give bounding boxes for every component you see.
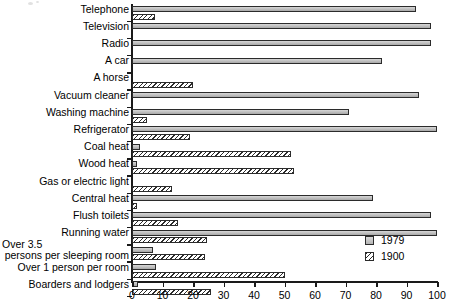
- bar-group: [132, 22, 437, 39]
- bar-1900: [132, 272, 285, 278]
- x-axis-tick-label: 0: [129, 289, 135, 301]
- bar-1979: [132, 144, 140, 150]
- x-axis-tick: [285, 282, 287, 287]
- bar-1979: [132, 40, 431, 46]
- bar-group: [132, 57, 437, 74]
- bar-1979: [132, 58, 382, 64]
- category-label: Coal heat: [0, 141, 129, 152]
- x-axis-tick-label: 100: [428, 289, 446, 301]
- bar-1900: [132, 220, 178, 226]
- category-label: Refrigerator: [0, 124, 129, 135]
- legend-swatch-1900-icon: [365, 252, 374, 261]
- bar-1900: [132, 151, 291, 157]
- bar-group: [132, 5, 437, 22]
- bar-group: [132, 74, 437, 91]
- legend-item-1900: 1900: [365, 248, 404, 264]
- bar-1900: [132, 14, 155, 20]
- category-label: Television: [0, 21, 129, 32]
- category-label: Radio: [0, 38, 129, 49]
- bar-1900: [132, 117, 147, 123]
- category-label: Wood heat: [0, 158, 129, 169]
- bar-group: [132, 91, 437, 108]
- legend-swatch-1979-icon: [365, 236, 374, 245]
- bar-1900: [132, 134, 190, 140]
- bar-group: [132, 160, 437, 177]
- x-axis-tick: [376, 282, 378, 287]
- category-label: Vacuum cleaner: [0, 90, 129, 101]
- bar-1979: [132, 264, 156, 270]
- x-axis-tick-label: 20: [187, 289, 199, 301]
- bar-group: [132, 177, 437, 194]
- x-axis-tick: [163, 282, 165, 287]
- bar-chart: TelephoneTelevisionRadioA carA horseVacu…: [0, 0, 451, 307]
- x-axis-tick-label: 50: [279, 289, 291, 301]
- x-axis-tick-label: 30: [218, 289, 230, 301]
- bar-group: [132, 143, 437, 160]
- bar-1979: [132, 247, 153, 253]
- x-axis-tick: [254, 282, 256, 287]
- bar-1979: [132, 23, 431, 29]
- bar-1979: [132, 212, 431, 218]
- x-axis-tick-label: 90: [401, 289, 413, 301]
- x-axis-tick: [437, 282, 439, 287]
- bar-group: [132, 211, 437, 228]
- category-label: Boarders and lodgers: [0, 279, 129, 290]
- bar-group: [132, 125, 437, 142]
- x-axis-tick: [407, 282, 409, 287]
- category-label: Central heat: [0, 193, 129, 204]
- x-axis-tick: [315, 282, 317, 287]
- x-axis-tick: [346, 282, 348, 287]
- x-axis-tick-label: 80: [370, 289, 382, 301]
- category-label: Gas or electric light: [0, 176, 129, 187]
- legend-label-1979: 1979: [381, 234, 404, 246]
- bar-1979: [132, 195, 373, 201]
- bar-1900: [132, 254, 205, 260]
- category-label: Telephone: [0, 4, 129, 15]
- category-label: A horse: [0, 72, 129, 83]
- category-label: Running water: [0, 227, 129, 238]
- x-axis-tick: [132, 282, 134, 287]
- bar-group: [132, 39, 437, 56]
- bar-1900: [132, 82, 193, 88]
- bar-group: [132, 263, 437, 280]
- bar-group: [132, 108, 437, 125]
- legend: 1979 1900: [365, 232, 404, 264]
- category-label: A car: [0, 55, 129, 66]
- bar-1900: [132, 237, 207, 243]
- bar-1900: [132, 168, 294, 174]
- x-axis-tick: [224, 282, 226, 287]
- bar-group: [132, 194, 437, 211]
- category-label-line2: persons per sleeping room: [2, 250, 129, 261]
- x-axis-tick-label: 10: [157, 289, 169, 301]
- bar-1979: [132, 109, 349, 115]
- bar-1979: [132, 92, 419, 98]
- category-label: Flush toilets: [0, 210, 129, 221]
- legend-label-1900: 1900: [381, 250, 404, 262]
- bar-1979: [132, 126, 437, 132]
- category-label: Over 1 person per room: [0, 262, 129, 273]
- x-axis-tick-label: 70: [340, 289, 352, 301]
- bar-1900: [132, 289, 211, 295]
- category-label: Washing machine: [0, 107, 129, 118]
- bar-1979: [132, 6, 416, 12]
- x-axis-tick-label: 40: [248, 289, 260, 301]
- legend-item-1979: 1979: [365, 232, 404, 248]
- bar-1900: [132, 203, 137, 209]
- x-axis-tick-label: 60: [309, 289, 321, 301]
- bar-1900: [132, 186, 172, 192]
- bar-1979: [132, 161, 137, 167]
- category-label: Over 3.5persons per sleeping room: [2, 239, 129, 261]
- x-axis-tick: [193, 282, 195, 287]
